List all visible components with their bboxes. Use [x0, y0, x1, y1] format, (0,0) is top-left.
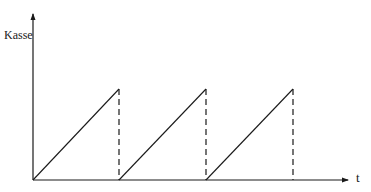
y-axis-label: Kasse	[4, 28, 33, 43]
ramp-3	[206, 89, 293, 180]
ramp-1	[33, 89, 119, 180]
ramp-2	[119, 89, 206, 180]
x-axis-label: t	[356, 170, 360, 186]
chart-canvas	[0, 0, 371, 192]
